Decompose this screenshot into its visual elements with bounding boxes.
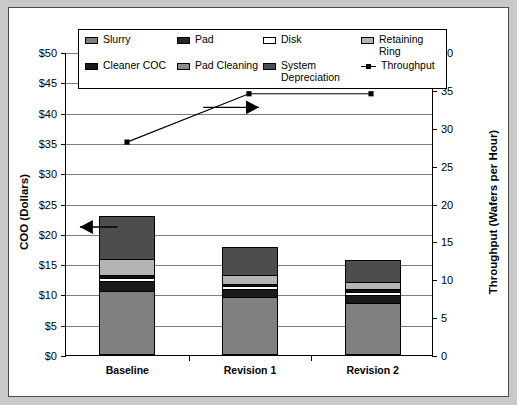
legend-item[interactable]: Retaining Ring — [361, 34, 440, 57]
chart-canvas: COO (Dollars) Throughput (Wafers per Hou… — [8, 7, 509, 397]
y-axis-right-tick — [432, 205, 437, 206]
slurry-swatch — [85, 37, 98, 44]
y-axis-right-tick — [432, 129, 437, 130]
legend-item-label: System Depreciation — [281, 60, 361, 83]
legend-item-label: Pad — [195, 34, 214, 46]
legend-item-label: Slurry — [103, 34, 130, 46]
cleaner-coc-swatch — [85, 63, 98, 70]
y-axis-right-tick-label: 5 — [441, 312, 447, 324]
y-axis-right-tick-label: 15 — [441, 236, 453, 248]
y-axis-right-tick-label: 10 — [441, 274, 453, 286]
y-axis-left-tick-label: $10 — [39, 289, 57, 301]
y-axis-left-tick-label: $5 — [45, 320, 57, 332]
x-axis-category-label: Revision 2 — [346, 364, 399, 376]
y-axis-right-title-text: Throughput (Wafers per Hour) — [487, 129, 499, 293]
y-axis-right-tick-label: 0 — [441, 350, 447, 362]
legend-item[interactable]: Pad Cleaning — [177, 60, 263, 83]
y-axis-left-tick-label: $30 — [39, 168, 57, 180]
y-axis-left-tick-label: $50 — [39, 47, 57, 59]
retaining-ring-swatch — [361, 37, 374, 44]
annotation-arrow-head — [80, 220, 93, 234]
annotation-arrow-head — [246, 100, 259, 114]
pad-swatch — [177, 37, 190, 44]
y-axis-right-tick-label: 25 — [441, 161, 453, 173]
y-axis-right-tick — [432, 242, 437, 243]
y-axis-left-tick-label: $35 — [39, 138, 57, 150]
annotation-arrow-layer — [66, 53, 432, 355]
y-axis-left-tick-label: $25 — [39, 199, 57, 211]
y-axis-right-tick-label: 20 — [441, 199, 453, 211]
y-axis-right-tick — [432, 91, 437, 92]
y-axis-right-tick — [432, 318, 437, 319]
y-axis-left-tick-label: $15 — [39, 259, 57, 271]
system-depreciation-swatch — [263, 63, 276, 70]
y-axis-left-title: COO (Dollars) — [15, 60, 33, 363]
y-axis-right-tick-label: 30 — [441, 123, 453, 135]
y-axis-right-tick — [432, 167, 437, 168]
legend-item[interactable]: Slurry — [85, 34, 177, 57]
x-axis-tick — [189, 355, 190, 361]
y-axis-right-tick — [432, 356, 437, 357]
legend-item-label: Retaining Ring — [379, 34, 440, 57]
y-axis-left-tick — [61, 356, 66, 357]
y-axis-left-tick-label: $20 — [39, 229, 57, 241]
legend-item[interactable]: Throughput — [361, 60, 440, 83]
y-axis-left-tick-label: $0 — [45, 350, 57, 362]
legend-item[interactable]: Disk — [263, 34, 361, 57]
legend-item[interactable]: System Depreciation — [263, 60, 361, 83]
legend-item-label: Cleaner COC — [103, 60, 166, 72]
legend-item-label: Disk — [281, 34, 301, 46]
x-axis-tick — [311, 355, 312, 361]
x-axis-category-label: Baseline — [106, 364, 149, 376]
legend-item[interactable]: Cleaner COC — [85, 60, 177, 83]
y-axis-right-title: Throughput (Wafers per Hour) — [483, 60, 503, 363]
legend-item-label: Pad Cleaning — [195, 60, 258, 72]
throughput-marker — [361, 62, 376, 71]
y-axis-right-tick — [432, 280, 437, 281]
chart-figure-frame: COO (Dollars) Throughput (Wafers per Hou… — [0, 0, 517, 405]
y-axis-left-tick-label: $40 — [39, 108, 57, 120]
legend-item[interactable]: Pad — [177, 34, 263, 57]
x-axis-category-label: Revision 1 — [224, 364, 277, 376]
chart-legend: SlurryPadDiskRetaining RingCleaner COCPa… — [78, 29, 447, 89]
pad-cleaning-swatch — [177, 63, 190, 70]
plot-area: $0$5$10$15$20$25$30$35$40$45$50 05101520… — [65, 53, 433, 356]
disk-swatch — [263, 37, 276, 44]
legend-item-label: Throughput — [381, 60, 435, 72]
y-axis-left-title-text: COO (Dollars) — [18, 173, 30, 249]
y-axis-left-tick-label: $45 — [39, 77, 57, 89]
